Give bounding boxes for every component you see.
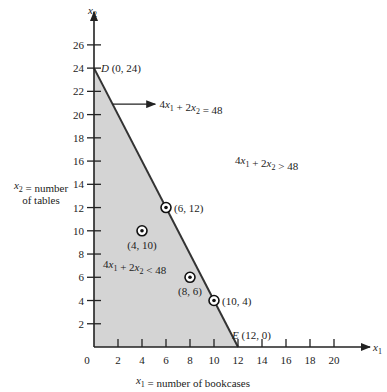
point-dot-icon	[164, 206, 168, 210]
x-tick-label: 4	[139, 354, 145, 366]
x-axis-symbol: x1	[372, 341, 382, 356]
point-dot-icon	[212, 299, 216, 303]
y-tick-label: 18	[73, 132, 85, 144]
constraint-line-label: 4x1 + 2x2 = 48	[159, 98, 223, 116]
y-tick-label: 24	[73, 62, 85, 74]
point-label: (6, 12)	[174, 202, 204, 215]
x-axis-title: x1 = number of bookcases	[135, 374, 250, 389]
y-tick-label: 26	[73, 39, 85, 51]
y-tick-label: 20	[73, 109, 85, 121]
x-tick-label: 8	[187, 354, 193, 366]
y-tick-label: 14	[73, 178, 85, 190]
x-tick-label: 14	[257, 354, 269, 366]
y-tick-label: 10	[73, 225, 85, 237]
y-tick-label: 12	[73, 202, 84, 214]
x-tick-label: 12	[233, 354, 244, 366]
data-point: (10, 4)	[209, 295, 252, 308]
point-label: (8, 6)	[178, 285, 202, 298]
feasible-region-chart: 246810121416182024681012141618202224260 …	[0, 0, 387, 392]
y-axis-title-line1: x2 = number	[13, 179, 69, 194]
infeasible-region-label: 4x1 + 2x2 > 48	[235, 154, 299, 172]
y-tick-label: 6	[79, 271, 85, 283]
x-tick-label: 20	[329, 354, 341, 366]
x-tick-label: 10	[209, 354, 221, 366]
point-dot-icon	[140, 229, 144, 233]
vertex-e-label: E (12, 0)	[231, 329, 271, 342]
data-point: (6, 12)	[161, 202, 204, 215]
y-axis-title-line2: of tables	[22, 194, 60, 206]
x-tick-label: 2	[115, 354, 121, 366]
y-tick-label: 2	[79, 318, 85, 330]
y-tick-label: 8	[79, 248, 85, 260]
y-tick-label: 16	[73, 155, 85, 167]
point-dot-icon	[188, 275, 192, 279]
point-label: (4, 10)	[127, 239, 157, 252]
vertex-d-label: D (0, 24)	[100, 62, 141, 75]
x-tick-label: 16	[281, 354, 293, 366]
point-label: (10, 4)	[222, 295, 252, 308]
y-axis-symbol: x2	[87, 4, 97, 19]
x-tick-label: 18	[305, 354, 317, 366]
y-tick-label: 22	[73, 85, 84, 97]
origin-label: 0	[84, 354, 90, 366]
x-tick-label: 6	[163, 354, 169, 366]
y-tick-label: 4	[79, 295, 85, 307]
